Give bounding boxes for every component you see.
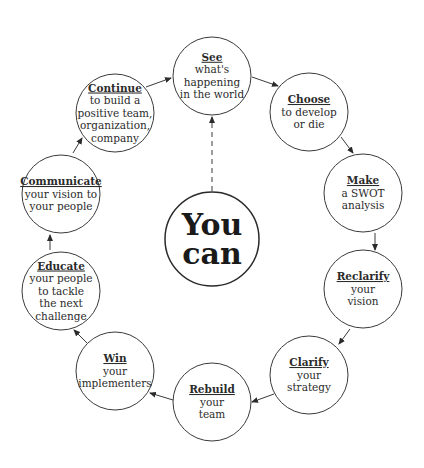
- node-text-line: what's: [195, 63, 230, 75]
- node-text-line: your: [350, 283, 376, 295]
- node-text-line: analysis: [342, 199, 385, 211]
- arrow-clarify-to-rebuild: [252, 394, 274, 402]
- node-text-line: to tackle: [38, 285, 84, 297]
- node-text-line: challenge: [35, 310, 87, 322]
- node-title: Educate: [37, 260, 85, 272]
- arrow-win-to-educate: [74, 330, 87, 343]
- node-text-line: your vision to: [24, 188, 97, 200]
- arrow-choose-to-make: [341, 137, 353, 153]
- you-can-cycle-diagram: Seewhat'shappeningin the worldChooseto d…: [0, 0, 424, 468]
- node-text-line: company: [91, 132, 139, 144]
- node-text-line: implementers: [78, 377, 151, 389]
- node-text-line: your people: [29, 272, 93, 284]
- node-text-line: to build a: [90, 94, 140, 106]
- node-text-line: or die: [294, 118, 325, 130]
- node-reclarify: Reclarifyyourvision: [324, 250, 402, 328]
- arrow-communicate-to-continue: [73, 138, 82, 153]
- node-text-line: vision: [346, 295, 378, 307]
- node-title: Reclarify: [337, 270, 391, 282]
- node-text-line: happening: [184, 76, 241, 88]
- node-title: Communicate: [20, 175, 102, 187]
- center-you-can: Youcan: [165, 192, 259, 286]
- arrow-rebuild-to-win: [150, 393, 173, 400]
- node-title: Rebuild: [189, 383, 235, 395]
- node-text-line: team: [199, 408, 226, 420]
- arrow-see-to-choose: [252, 77, 278, 86]
- node-win: Winyourimplementers: [76, 332, 154, 410]
- node-text-line: positive team,: [78, 107, 153, 119]
- node-text-line: a SWOT: [341, 187, 384, 199]
- node-continue: Continueto build apositive team,organiza…: [76, 74, 154, 152]
- node-text-line: strategy: [287, 381, 331, 393]
- node-communicate: Communicateyour vision toyour people: [20, 155, 102, 233]
- node-rebuild: Rebuildyourteam: [173, 363, 251, 441]
- center-node: Youcan: [165, 192, 259, 286]
- node-text-line: your: [199, 396, 225, 408]
- node-title: Win: [102, 352, 127, 364]
- node-make: Makea SWOTanalysis: [324, 154, 402, 232]
- node-title: See: [202, 51, 223, 63]
- center-text-line: can: [182, 236, 242, 271]
- arrow-reclarify-to-clarify: [339, 329, 350, 344]
- node-title: Choose: [288, 93, 331, 105]
- node-text-line: organization,: [80, 119, 150, 131]
- arrow-continue-to-see: [146, 78, 171, 87]
- node-text-line: to develop: [281, 106, 337, 118]
- node-clarify: Clarifyyourstrategy: [270, 336, 348, 414]
- node-title: Continue: [88, 82, 142, 94]
- node-text-line: your: [102, 365, 128, 377]
- node-text-line: the next: [39, 297, 83, 309]
- node-see: Seewhat'shappeningin the world: [173, 37, 251, 115]
- node-title: Clarify: [289, 356, 329, 368]
- node-text-line: your people: [29, 200, 93, 212]
- node-title: Make: [347, 174, 380, 186]
- node-text-line: your: [296, 369, 322, 381]
- node-text-line: in the world: [180, 88, 245, 100]
- node-choose: Chooseto developor die: [270, 73, 348, 151]
- node-educate: Educateyour peopleto tacklethe nextchall…: [22, 252, 100, 330]
